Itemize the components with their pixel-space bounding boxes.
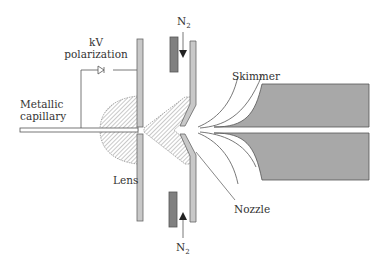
- skimmer-upper: [214, 84, 369, 127]
- capillary-label-line1: Metallic: [20, 98, 64, 110]
- kv-wire: [81, 70, 98, 128]
- capillary-label-line2: capillary: [20, 110, 66, 122]
- lens-plate-upper: [137, 39, 143, 127]
- n2-baffle-upper: [170, 37, 178, 72]
- spray-plume-right: [144, 97, 194, 164]
- jet-streamline-1: [198, 76, 238, 127]
- metallic-capillary: [20, 128, 138, 132]
- n2-bottom-label: N2: [176, 241, 190, 256]
- n2-baffle-lower: [169, 192, 177, 227]
- kv-label-line1: kV: [89, 36, 103, 48]
- kv-label-line2: polarization: [64, 48, 128, 60]
- skimmer-label: Skimmer: [232, 70, 281, 82]
- n2-arrow-up-icon: [179, 212, 187, 220]
- n2-top-label: N2: [177, 15, 191, 30]
- n2-arrow-down-icon: [179, 50, 187, 58]
- skimmer-lower: [214, 133, 369, 180]
- nozzle-label: Nozzle: [234, 203, 270, 215]
- electrospray-source-diagram: kV polarization Metallic capillary Lens …: [0, 0, 386, 261]
- kv-connector-icon: [98, 66, 104, 74]
- lens-label: Lens: [113, 174, 138, 186]
